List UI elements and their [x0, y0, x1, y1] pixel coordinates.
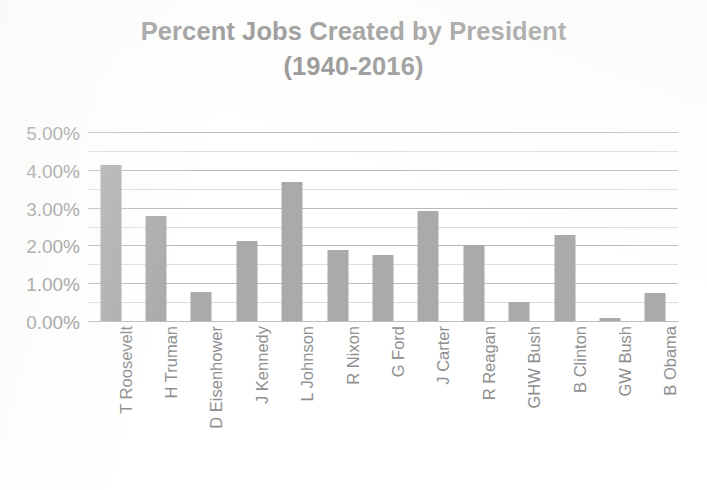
x-axis-tick-label: J Kennedy — [254, 326, 271, 404]
x-axis-tick-label: T Roosevelt — [118, 326, 135, 414]
gridline-major — [88, 208, 678, 209]
chart-title: Percent Jobs Created by President (1940-… — [0, 14, 707, 83]
y-axis-tick-label: 3.00% — [2, 199, 80, 218]
chart-title-line-1: Percent Jobs Created by President — [0, 14, 707, 49]
bar — [146, 216, 167, 322]
bar — [463, 245, 484, 322]
bar — [282, 182, 303, 322]
chart-title-line-2: (1940-2016) — [0, 49, 707, 84]
x-axis-tick-label: R Reagan — [481, 326, 498, 400]
x-axis-tick-label: G Ford — [390, 326, 407, 377]
x-axis: T RooseveltH TrumanD EisenhowerJ Kennedy… — [88, 326, 678, 476]
x-axis-tick-label: J Carter — [435, 326, 452, 385]
gridline-major — [88, 170, 678, 171]
gridline-major — [88, 245, 678, 246]
bar — [645, 293, 666, 322]
axis-baseline — [88, 321, 678, 322]
bar-chart: Percent Jobs Created by President (1940-… — [0, 0, 707, 490]
bar — [236, 241, 257, 322]
x-axis-tick-label: GW Bush — [617, 326, 634, 397]
bar — [100, 165, 121, 322]
gridline-minor — [88, 189, 678, 190]
gridline-minor — [88, 227, 678, 228]
x-axis-tick-label: H Truman — [163, 326, 180, 398]
bar — [373, 255, 394, 322]
bar — [191, 292, 212, 322]
y-axis-tick-label: 5.00% — [2, 124, 80, 143]
bar — [327, 250, 348, 322]
bar — [509, 302, 530, 322]
bar — [554, 235, 575, 322]
y-axis-tick-label: 1.00% — [2, 275, 80, 294]
y-axis-tick-label: 0.00% — [2, 313, 80, 332]
x-axis-tick-label: R Nixon — [345, 326, 362, 385]
x-axis-tick-label: B Clinton — [572, 326, 589, 393]
x-axis-tick-label: GHW Bush — [526, 326, 543, 409]
plot-area — [88, 133, 678, 322]
gridline-major — [88, 132, 678, 133]
y-axis-tick-label: 2.00% — [2, 237, 80, 256]
x-axis-tick-label: L Johnson — [299, 326, 316, 402]
x-axis-tick-label: B Obama — [662, 326, 679, 396]
gridline-minor — [88, 151, 678, 152]
bar — [418, 211, 439, 322]
x-axis-tick-label: D Eisenhower — [208, 326, 225, 429]
y-axis-tick-label: 4.00% — [2, 161, 80, 180]
y-axis: 0.00%1.00%2.00%3.00%4.00%5.00% — [0, 133, 80, 322]
